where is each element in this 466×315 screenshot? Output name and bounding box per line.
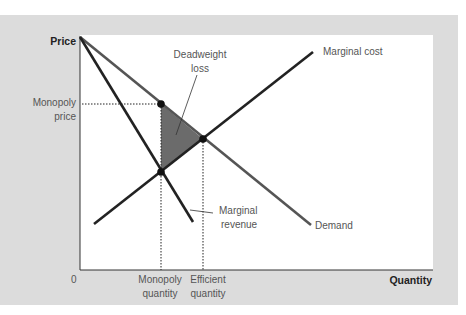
monopoly-point — [157, 100, 165, 108]
marginal-revenue-label-line1: Marginal — [219, 205, 257, 217]
y-axis-label: Price — [30, 35, 76, 47]
deadweight-loss-label-line2: loss — [165, 63, 235, 75]
monopoly-price-label-line2: price — [20, 111, 76, 123]
monopoly-quantity-label-line2: quantity — [130, 288, 190, 300]
efficient-quantity-label-line1: Efficient — [183, 274, 233, 286]
mr-mc-intersection-point — [157, 168, 165, 176]
monopoly-price-label-line1: Monopoly — [20, 97, 76, 109]
deadweight-loss-area — [161, 104, 203, 172]
marginal-revenue-label-line2: revenue — [221, 219, 257, 231]
monopoly-quantity-label-line1: Monopoly — [130, 274, 190, 286]
marginal-revenue-leader-line — [190, 210, 213, 213]
origin-label: 0 — [71, 274, 77, 286]
deadweight-loss-label-line1: Deadweight — [165, 49, 235, 61]
demand-label: Demand — [315, 220, 353, 232]
efficient-point — [199, 135, 207, 143]
efficient-quantity-label-line2: quantity — [183, 288, 233, 300]
marginal-cost-label: Marginal cost — [323, 46, 382, 58]
x-axis-label: Quantity — [370, 274, 432, 286]
chart-svg — [0, 0, 466, 315]
